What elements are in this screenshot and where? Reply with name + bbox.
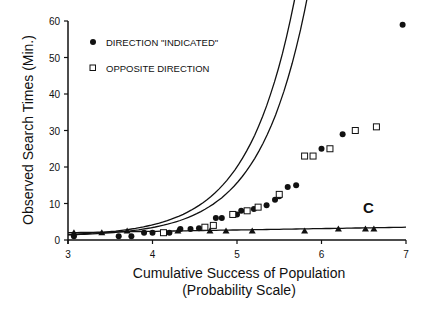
- legend: DIRECTION "INDICATED" OPPOSITE DIRECTION: [90, 37, 218, 74]
- point-indicated: [116, 233, 122, 239]
- y-tick-label: 40: [49, 89, 61, 100]
- y-ticks: 0102030405060: [49, 16, 68, 246]
- x-tick-label: 5: [234, 249, 240, 260]
- point-indicated: [128, 233, 134, 239]
- x-axis-sublabel: (Probability Scale): [182, 282, 296, 298]
- y-tick-label: 30: [49, 126, 61, 137]
- fit-opposite: [68, 0, 400, 235]
- point-indicated: [141, 230, 147, 236]
- point-indicated: [219, 215, 225, 221]
- point-indicated: [150, 230, 156, 236]
- x-axis-label: Cumulative Success of Population: [133, 265, 345, 281]
- point-indicated: [264, 202, 270, 208]
- point-indicated: [293, 182, 299, 188]
- x-tick-label: 4: [150, 249, 156, 260]
- point-indicated: [340, 131, 346, 137]
- point-indicated: [166, 230, 172, 236]
- y-axis-label: Observed Search Times (Min.): [20, 35, 36, 225]
- x-tick-label: 7: [403, 249, 409, 260]
- point-indicated: [238, 208, 244, 214]
- point-opposite: [352, 128, 358, 134]
- point-opposite: [210, 222, 216, 228]
- point-c: [370, 226, 377, 232]
- point-opposite: [255, 204, 261, 210]
- point-opposite: [230, 211, 236, 217]
- y-tick-label: 50: [49, 53, 61, 64]
- legend-marker-opposite: [90, 65, 96, 71]
- point-opposite: [244, 208, 250, 214]
- plot-area: 0102030405060 34567: [49, 0, 409, 260]
- point-indicated: [188, 226, 194, 232]
- x-ticks: 34567: [65, 240, 409, 260]
- point-indicated: [400, 22, 406, 28]
- x-tick-label: 6: [319, 249, 325, 260]
- chart: 0102030405060 34567 Observed Search Time…: [0, 0, 429, 313]
- annotation-c: C: [363, 199, 374, 216]
- y-tick-label: 0: [54, 235, 60, 246]
- point-indicated: [319, 146, 325, 152]
- y-tick-label: 60: [49, 16, 61, 27]
- point-opposite: [276, 191, 282, 197]
- point-indicated: [196, 225, 202, 231]
- point-opposite: [327, 146, 333, 152]
- legend-label-indicated: DIRECTION "INDICATED": [106, 37, 218, 48]
- y-tick-label: 20: [49, 162, 61, 173]
- point-opposite: [160, 230, 166, 236]
- point-opposite: [310, 153, 316, 159]
- point-indicated: [285, 184, 291, 190]
- point-opposite: [373, 124, 379, 130]
- fit-indicated: [68, 0, 386, 235]
- legend-marker-indicated: [90, 39, 96, 45]
- legend-label-opposite: OPPOSITE DIRECTION: [106, 63, 210, 74]
- point-indicated: [213, 215, 219, 221]
- point-opposite: [302, 153, 308, 159]
- point-opposite: [202, 224, 208, 230]
- fit-c: [68, 227, 406, 233]
- y-tick-label: 10: [49, 199, 61, 210]
- data-markers: [70, 22, 405, 240]
- fit-lines: [68, 0, 406, 235]
- x-tick-label: 3: [65, 249, 71, 260]
